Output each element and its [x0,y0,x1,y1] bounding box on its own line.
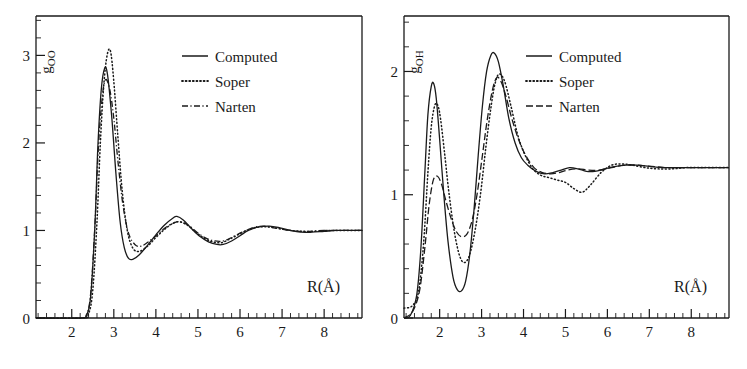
legend-item-computed: Computed [526,49,622,65]
x-tick-label: 5 [194,324,202,340]
x-tick-label: 3 [478,324,486,340]
x-tick-label: 4 [520,324,528,340]
y-tick-label: 0 [391,311,399,327]
x-axis-tick-labels: 2345678 [68,324,328,340]
x-tick-label: 4 [152,324,160,340]
y-axis-tick-labels: 0123 [23,48,31,327]
y-axis-title-text: gOH [406,50,425,73]
y-axis-title: gOH [406,50,425,73]
y-tick-label: 2 [391,64,399,80]
legend-label: Narten [215,99,256,115]
legend: ComputedSoperNarten [526,49,622,115]
x-tick-label: 7 [278,324,286,340]
legend: ComputedSoperNarten [182,49,278,115]
y-axis-title: gOO [38,50,57,73]
y-tick-label: 1 [391,187,399,203]
figure-container: 23456780123gOOR(Å)ComputedSoperNarten 23… [0,0,747,369]
y-axis-tick-labels: 012 [391,64,399,327]
x-tick-label: 6 [604,324,612,340]
y-axis-ticks [36,20,45,318]
g-oh-panel-plot: 2345678012gOHR(Å)ComputedSoperNarten [374,0,747,369]
legend-label: Narten [559,99,600,115]
x-axis-tick-labels: 2345678 [436,324,695,340]
g-oh-panel: 2345678012gOHR(Å)ComputedSoperNarten [374,0,747,369]
legend-label: Soper [215,74,250,90]
x-tick-label: 7 [646,324,654,340]
legend-item-soper: Soper [526,74,594,90]
g-oo-panel-plot: 23456780123gOOR(Å)ComputedSoperNarten [0,0,374,369]
x-tick-label: 6 [236,324,244,340]
legend-item-soper: Soper [182,74,250,90]
x-axis-title: R(Å) [674,278,707,296]
legend-item-computed: Computed [182,49,278,65]
x-tick-label: 8 [320,324,328,340]
x-tick-label: 3 [110,324,118,340]
g-oo-panel: 23456780123gOOR(Å)ComputedSoperNarten [0,0,374,369]
legend-item-narten: Narten [182,99,256,115]
legend-label: Soper [559,74,594,90]
y-tick-label: 3 [23,48,31,64]
legend-label: Computed [559,49,622,65]
x-axis-title: R(Å) [307,278,340,296]
y-tick-label: 1 [23,223,31,239]
y-tick-label: 2 [23,135,31,151]
x-tick-label: 2 [436,324,444,340]
x-tick-label: 8 [688,324,696,340]
x-tick-label: 5 [562,324,570,340]
legend-label: Computed [215,49,278,65]
y-axis-title-text: gOO [38,50,57,73]
plot-frame [36,16,362,318]
x-axis-ticks [406,309,725,318]
y-tick-label: 0 [23,311,31,327]
legend-item-narten: Narten [526,99,600,115]
x-tick-label: 2 [68,324,76,340]
